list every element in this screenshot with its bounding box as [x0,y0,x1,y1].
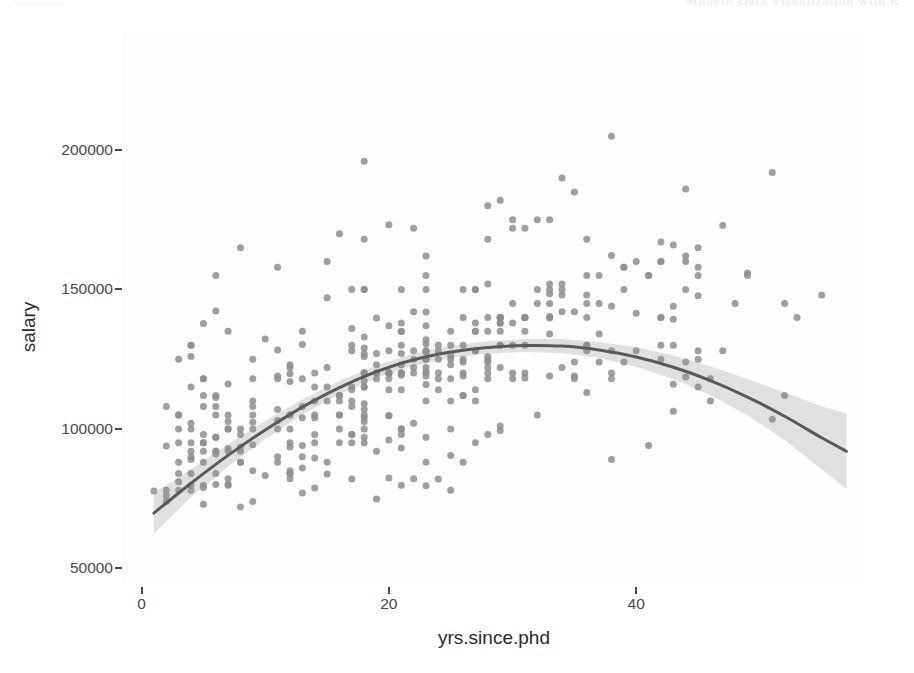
data-point [682,186,689,193]
data-point [175,439,182,446]
data-point [200,375,207,382]
data-point [398,482,405,489]
data-point [423,459,430,466]
data-point [447,452,454,459]
data-point [707,398,714,405]
data-point [596,359,603,366]
data-point [423,347,430,354]
data-point [348,476,355,483]
data-point [447,425,454,432]
data-point [633,347,640,354]
data-point [410,364,417,371]
data-point [336,230,343,237]
data-point [410,308,417,315]
data-point [608,370,615,377]
data-point [361,406,368,413]
data-point [188,453,195,460]
data-point [361,353,368,360]
data-point [546,216,553,223]
data-point [249,467,256,474]
data-point [287,425,294,432]
data-point [521,370,528,377]
data-point [299,414,306,421]
data-point [212,411,219,418]
data-point [200,459,207,466]
data-point [324,364,331,371]
data-point [212,448,219,455]
data-point [497,427,504,434]
data-point [299,341,306,348]
x-tick-mark [141,587,143,594]
data-point [596,300,603,307]
data-point [670,381,677,388]
data-point [237,431,244,438]
data-point [237,459,244,466]
data-point [670,303,677,310]
data-point [423,286,430,293]
data-point [410,420,417,427]
data-point [336,392,343,399]
data-point [385,322,392,329]
data-point [435,386,442,393]
data-point [645,442,652,449]
data-point [571,359,578,366]
data-point [620,359,627,366]
data-point [299,328,306,335]
data-point [299,490,306,497]
data-point [781,300,788,307]
data-point [460,392,467,399]
data-point [484,375,491,382]
data-point [460,314,467,321]
data-point [546,372,553,379]
data-point [311,431,318,438]
data-point [670,241,677,248]
data-point [521,225,528,232]
data-point [682,253,689,260]
data-point [225,411,232,418]
data-point [398,431,405,438]
x-tick-label: 40 [606,596,666,612]
data-point [348,398,355,405]
data-point [608,456,615,463]
data-point [497,197,504,204]
data-point [212,392,219,399]
data-point [398,286,405,293]
data-point [423,381,430,388]
data-point [546,331,553,338]
data-point [620,264,627,271]
data-point [324,258,331,265]
data-point [274,375,281,382]
data-point [249,356,256,363]
data-point [385,412,392,419]
data-point [472,286,479,293]
data-point [237,503,244,510]
data-point [311,455,318,462]
data-point [200,403,207,410]
data-point [385,221,392,228]
data-point [188,353,195,360]
data-point [262,472,269,479]
data-point [225,425,232,432]
scatter-points [150,133,825,511]
x-tick-label: 0 [112,596,172,612]
data-point [287,470,294,477]
data-point [175,459,182,466]
data-point [559,364,566,371]
data-point [348,286,355,293]
data-point [398,319,405,326]
data-point [188,487,195,494]
data-point [348,386,355,393]
data-point [695,264,702,271]
data-point [670,408,677,415]
data-point [361,236,368,243]
data-point [175,411,182,418]
data-point [175,356,182,363]
data-point [398,350,405,357]
data-point [373,375,380,382]
data-point [583,272,590,279]
data-point [484,431,491,438]
plot-panel [123,33,865,585]
data-point [472,319,479,326]
data-point [200,448,207,455]
data-point [695,244,702,251]
